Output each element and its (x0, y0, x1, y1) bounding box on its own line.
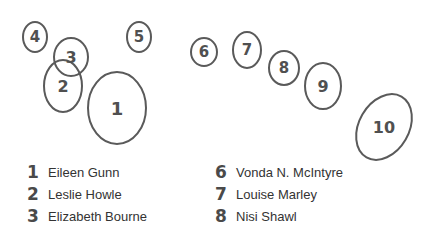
ellipse-label: 5 (134, 28, 144, 46)
legend-name: Eileen Gunn (48, 165, 120, 180)
legend-item-right-1: 6 Vonda N. McIntyre (210, 162, 343, 182)
ellipse-marker-4: 4 (23, 22, 47, 52)
ellipse-label: 6 (199, 43, 209, 61)
legend-name: Louise Marley (236, 187, 317, 202)
legend-name: Nisi Shawl (236, 209, 297, 224)
legend-number: 3 (22, 206, 44, 226)
ellipse-marker-7: 7 (233, 32, 261, 68)
ellipse-marker-10: 10 (345, 84, 423, 170)
ellipse-label: 4 (30, 28, 40, 46)
legend-number: 1 (22, 162, 44, 182)
ellipse-label: 2 (57, 77, 68, 96)
legend-item-right-2: 7 Louise Marley (210, 184, 317, 204)
legend-item-left-3: 3 Elizabeth Bourne (22, 206, 147, 226)
legend-number: 6 (210, 162, 232, 182)
ellipse-marker-9: 9 (305, 63, 341, 109)
ellipse-marker-5: 5 (127, 22, 151, 52)
legend-name: Vonda N. McIntyre (236, 165, 343, 180)
ellipse-marker-1: 1 (88, 72, 146, 144)
legend-item-left-1: 1 Eileen Gunn (22, 162, 120, 182)
legend-name: Elizabeth Bourne (48, 209, 147, 224)
legend-number: 2 (22, 184, 44, 204)
ellipse-label: 3 (65, 48, 76, 67)
ellipse-marker-2: 2 (44, 60, 82, 112)
legend-item-left-2: 2 Leslie Howle (22, 184, 122, 204)
legend-number: 8 (210, 206, 232, 226)
ellipse-label: 10 (373, 118, 395, 137)
ellipse-marker-6: 6 (191, 38, 217, 66)
ellipse-label: 7 (242, 41, 252, 59)
ellipse-marker-3: 3 (54, 38, 88, 76)
ellipse-marker-8: 8 (269, 51, 299, 85)
legend-number: 7 (210, 184, 232, 204)
ellipse-label: 1 (111, 98, 124, 119)
ellipse-label: 9 (317, 77, 328, 96)
legend-item-right-3: 8 Nisi Shawl (210, 206, 297, 226)
ellipse-label: 8 (279, 59, 289, 77)
legend-name: Leslie Howle (48, 187, 122, 202)
